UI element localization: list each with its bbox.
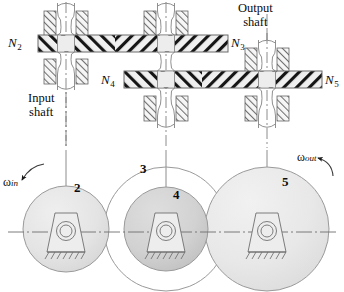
omega-out-arrow (318, 158, 333, 176)
gear-band-lower (124, 71, 322, 88)
schematic-lower (8, 150, 338, 291)
band-upper-input-shaft-gap (58, 36, 75, 52)
omega-in-arrow (22, 164, 44, 180)
middle-shaft-left-edge (158, 3, 162, 128)
label-N5: N5 (325, 73, 338, 87)
gear-number-5: 5 (282, 175, 289, 189)
output-shaft-caption: Output shaft (238, 2, 273, 29)
label-N3: N3 (231, 36, 244, 50)
input-shaft-caption-line2: shaft (28, 106, 54, 120)
gear-train-figure: N2 N3 N4 N5 Input shaft Output shaft 2 3… (0, 0, 344, 292)
band-lower-middle-shaft-gap (158, 72, 175, 88)
middle-shaft-right-edge (171, 3, 175, 128)
gear-band-upper-left-hatch (38, 35, 115, 52)
gear-number-3: 3 (140, 162, 147, 176)
band-upper-middle-shaft-gap (158, 36, 175, 52)
gear-train-drawing (0, 0, 344, 292)
gear-number-4: 4 (173, 188, 180, 202)
band-lower-output-shaft-gap (259, 72, 276, 88)
label-N2: N2 (8, 36, 21, 50)
gear-band-upper (38, 35, 228, 52)
schematic-upper (38, 2, 322, 148)
output-shaft-caption-line2: shaft (238, 16, 273, 30)
label-omega-in: ωin (3, 176, 18, 189)
input-shaft-caption-line1: Input (28, 92, 54, 106)
label-N4: N4 (101, 73, 114, 87)
label-omega-out: ωout (297, 151, 316, 164)
output-shaft-caption-line1: Output (238, 2, 273, 16)
gear-number-2: 2 (74, 181, 81, 195)
input-shaft-caption: Input shaft (28, 92, 54, 119)
